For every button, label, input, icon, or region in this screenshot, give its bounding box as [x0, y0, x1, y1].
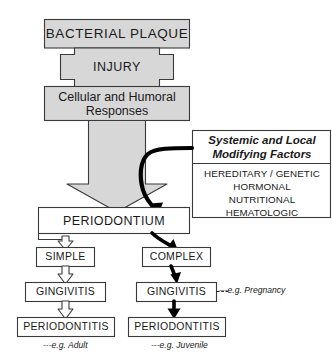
periodontitis-box-right [129, 318, 226, 337]
complex-box [143, 248, 211, 267]
cellular-humoral-box [45, 87, 190, 121]
arrow-hollow-gingivitis-to-periodontitis-left [58, 301, 73, 319]
periodontium-box [39, 208, 190, 234]
gingivitis-box-right [137, 283, 217, 302]
pathogenesis-flowchart [0, 0, 332, 364]
injury-puzzle-shape [61, 48, 174, 87]
arrow-cellular-to-periodontium [67, 121, 167, 213]
arrow-hollow-simple-to-gingivitis [58, 266, 73, 284]
periodontitis-box-left [18, 318, 115, 337]
arrow-factors-to-periodontium [141, 148, 192, 211]
simple-box [37, 248, 95, 267]
modifying-factors-panel [193, 131, 331, 218]
gingivitis-box-left [26, 283, 106, 302]
bacterial-plaque-box [45, 20, 190, 49]
